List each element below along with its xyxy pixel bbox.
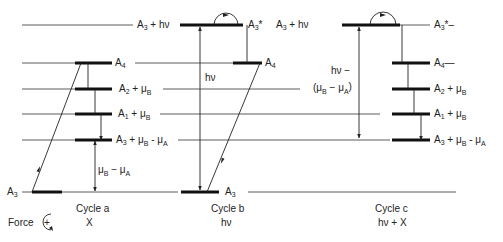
plus-sign: + [44,217,50,228]
cycle-b [180,13,262,192]
label-hv-gap-c-line1: hν − [331,65,350,76]
cycle-c-input: hν + X [378,217,407,228]
cycle-b-title: Cycle b [211,203,245,214]
force-legend: Force + [8,214,53,231]
label-a3-mub-mua-c: A3 + μB - μA [434,134,486,147]
cycle-a-title: Cycle a [76,203,110,214]
label-mu-gap-a: μB − μA [98,164,131,177]
label-a2-mub-c: A2 + μB [434,83,467,96]
cycle-b-input: hν [221,217,232,228]
cycle-a-input: X [86,217,93,228]
cycle-c-title: Cycle c [375,203,408,214]
label-a3-mub-mua-a: A3 + μB - μA [116,134,168,147]
label-a1-mub-c: A1 + μB [434,108,467,121]
label-a4-c: A4— [434,57,455,69]
label-a3-ground-b: A3 [225,186,236,198]
reference-lines [22,25,456,192]
label-a4-a: A4 [115,57,126,69]
label-a2-mub-a: A2 + μB [119,83,152,96]
label-a3-ground-a: A3 [7,186,18,198]
force-label: Force [8,217,34,228]
label-hv-gap-c-line2: (μB − μA) [313,81,352,95]
label-a1-mub-a: A1 + μB [118,108,151,121]
rotation-arc [370,12,396,25]
label-a3-hv: A3 + hν [137,19,170,31]
cycle-c [342,12,430,140]
label-a3-star-b: A3* [248,19,263,31]
energy-cycle-diagram: A3 + hν A3* A3 + hν A3*– A4 A4 A4— A2 + … [0,0,503,242]
label-a4-b: A4 [265,57,276,69]
label-hv-gap-b: hν [205,72,216,83]
label-a3-star-c: A3*– [434,19,454,31]
cycle-captions: Cycle a X Cycle b hν Cycle c hν + X [76,203,408,228]
label-a3-hv-c: A3 + hν [276,19,309,31]
excitation-arrow [32,63,81,192]
